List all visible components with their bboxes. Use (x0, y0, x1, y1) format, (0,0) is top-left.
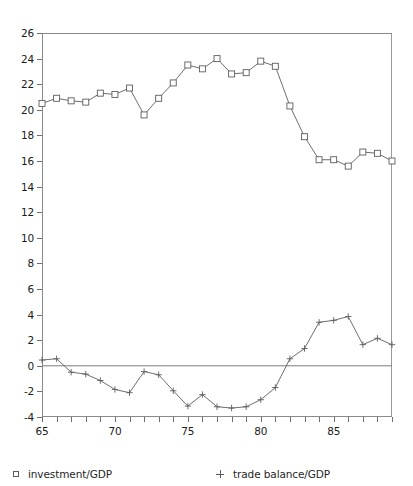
x-tick-mark (144, 417, 145, 422)
data-point-plus (345, 313, 351, 319)
data-point-square (127, 85, 133, 91)
x-tick-mark (232, 417, 233, 422)
y-tick-label: 6 (0, 284, 34, 294)
data-point-square (229, 71, 235, 77)
y-tick-label: 10 (0, 233, 34, 243)
data-point-square (199, 66, 205, 72)
x-tick-mark (217, 417, 218, 422)
x-tick-mark (275, 417, 276, 422)
x-tick-mark (115, 417, 116, 422)
x-tick-label: 70 (100, 426, 130, 437)
data-point-plus (243, 404, 249, 410)
legend-item-trade-balance: trade balance/GDP (216, 468, 330, 480)
data-point-plus (83, 371, 89, 377)
data-point-square (112, 91, 118, 97)
square-marker-icon (13, 471, 19, 477)
y-tick-label: 0 (0, 361, 34, 371)
data-point-square (39, 100, 45, 106)
x-tick-mark (159, 417, 160, 422)
x-tick-mark (290, 417, 291, 422)
data-point-plus (112, 386, 118, 392)
plus-marker-icon (216, 470, 224, 478)
x-tick-mark (334, 417, 335, 422)
x-tick-mark (42, 417, 43, 422)
data-point-square (243, 70, 249, 76)
data-point-square (68, 98, 74, 104)
data-point-square (316, 157, 322, 163)
data-series-layer (42, 33, 392, 417)
data-point-square (302, 134, 308, 140)
y-tick-label: -2 (0, 386, 34, 396)
y-tick-label: 4 (0, 310, 34, 320)
data-point-square (170, 80, 176, 86)
series-line (42, 59, 392, 167)
data-point-plus (330, 317, 336, 323)
x-tick-mark (246, 417, 247, 422)
x-tick-mark (86, 417, 87, 422)
x-tick-label: 65 (27, 426, 57, 437)
data-point-plus (374, 335, 380, 341)
data-point-square (258, 58, 264, 64)
data-point-square (185, 62, 191, 68)
data-point-plus (126, 389, 132, 395)
data-point-plus (141, 368, 147, 374)
y-tick-label: 8 (0, 258, 34, 268)
y-tick-label: 12 (0, 207, 34, 217)
y-tick-label: 14 (0, 182, 34, 192)
data-point-square (374, 150, 380, 156)
legend-item-investment: investment/GDP (13, 468, 112, 480)
data-point-square (141, 112, 147, 118)
data-point-plus (39, 357, 45, 363)
legend-label-investment: investment/GDP (28, 468, 112, 480)
x-tick-mark (130, 417, 131, 422)
x-tick-mark (202, 417, 203, 422)
y-tick-label: 26 (0, 28, 34, 38)
series-trade-balance (39, 313, 395, 411)
x-tick-mark (305, 417, 306, 422)
data-point-square (331, 157, 337, 163)
chart-figure: -4-202468101214161820222426 6570758085 i… (0, 0, 413, 486)
data-point-square (214, 56, 220, 62)
data-point-plus (389, 341, 395, 347)
data-point-plus (316, 319, 322, 325)
x-tick-mark (173, 417, 174, 422)
y-tick-label: 18 (0, 130, 34, 140)
data-point-square (97, 90, 103, 96)
x-tick-label: 85 (319, 426, 349, 437)
x-tick-mark (57, 417, 58, 422)
x-tick-mark (71, 417, 72, 422)
x-tick-mark (392, 417, 393, 422)
data-point-square (389, 158, 395, 164)
y-tick-label: 2 (0, 335, 34, 345)
data-point-plus (97, 377, 103, 383)
legend-label-trade-balance: trade balance/GDP (233, 468, 330, 480)
x-tick-mark (261, 417, 262, 422)
data-point-plus (287, 356, 293, 362)
y-tick-label: 16 (0, 156, 34, 166)
series-line (42, 317, 392, 409)
x-tick-mark (363, 417, 364, 422)
x-tick-label: 75 (173, 426, 203, 437)
plot-area (42, 33, 392, 417)
data-point-plus (301, 345, 307, 351)
data-point-plus (360, 341, 366, 347)
data-point-square (156, 95, 162, 101)
y-tick-label: 24 (0, 54, 34, 64)
x-tick-mark (319, 417, 320, 422)
x-tick-mark (348, 417, 349, 422)
x-tick-label: 80 (246, 426, 276, 437)
x-tick-mark (377, 417, 378, 422)
x-tick-mark (188, 417, 189, 422)
chart-legend: investment/GDP trade balance/GDP (0, 466, 413, 486)
data-point-square (345, 163, 351, 169)
series-investment (39, 56, 395, 170)
x-tick-mark (100, 417, 101, 422)
data-point-plus (228, 405, 234, 411)
y-tick-label: 20 (0, 105, 34, 115)
data-point-square (54, 95, 60, 101)
y-tick-label: 22 (0, 79, 34, 89)
y-tick-label: -4 (0, 412, 34, 422)
data-point-square (287, 103, 293, 109)
data-point-square (272, 63, 278, 69)
data-point-square (360, 149, 366, 155)
